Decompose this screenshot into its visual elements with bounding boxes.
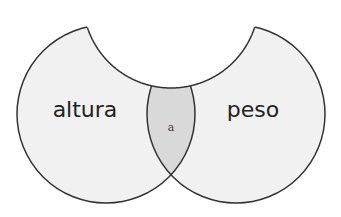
venn-diagram: altura peso a <box>0 0 341 217</box>
label-intersection: a <box>168 121 175 134</box>
label-peso: peso <box>227 97 279 122</box>
label-altura: altura <box>53 97 118 122</box>
